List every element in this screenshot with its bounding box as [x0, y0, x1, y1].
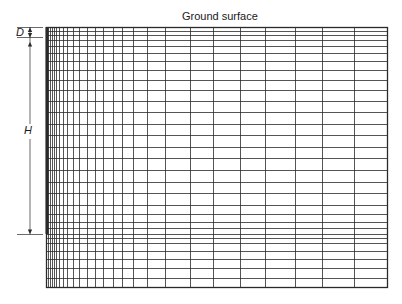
ground-surface-label: Ground surface [182, 10, 258, 22]
arrowhead-icon [28, 33, 32, 38]
arrowhead-icon [28, 28, 32, 33]
arrowhead-icon [28, 42, 32, 47]
pile-length-label-h: H [24, 124, 32, 136]
arrowhead-icon [28, 230, 32, 235]
mesh-boundary [47, 28, 388, 288]
finite-element-mesh [0, 0, 402, 304]
pile-head-depth-label-d: D [16, 26, 24, 38]
